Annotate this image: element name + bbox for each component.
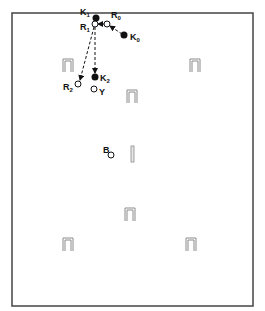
point-K2-filled: [92, 74, 99, 81]
arrow-R1-to-R2: [80, 27, 94, 80]
label-Y: Y: [99, 87, 105, 97]
gate-2-landmark-icon: [190, 59, 200, 72]
gate-5-landmark-icon: [63, 238, 73, 251]
label-R2: R2: [63, 82, 74, 93]
landmarks: [63, 59, 200, 251]
label-R1: R1: [80, 22, 91, 33]
point-R1-open: [92, 21, 98, 27]
bar-landmark-icon: [131, 146, 134, 162]
diagram-canvas: K1K0K2R0R1R2YB: [0, 0, 265, 311]
label-K0: K0: [130, 32, 141, 43]
label-K1: K1: [80, 7, 91, 18]
label-R0: R0: [111, 10, 122, 21]
gate-3-landmark-icon: [127, 90, 137, 103]
gate-6-landmark-icon: [186, 238, 196, 251]
gate-4-landmark-icon: [125, 208, 135, 221]
point-labels: K1K0K2R0R1R2YB: [63, 7, 141, 155]
label-K2: K2: [100, 73, 111, 84]
label-B: B: [103, 145, 110, 155]
point-K1-filled: [93, 15, 100, 22]
point-K0-filled: [121, 32, 128, 39]
point-Y-open: [91, 86, 97, 92]
arrow-K0-to-R0: [110, 26, 122, 34]
point-R0-open: [104, 21, 110, 27]
point-R2-open: [75, 81, 81, 87]
gate-1-landmark-icon: [63, 59, 73, 72]
